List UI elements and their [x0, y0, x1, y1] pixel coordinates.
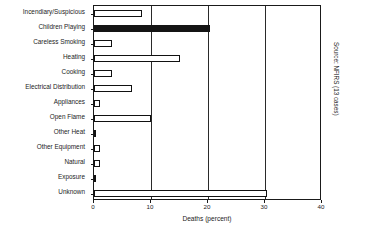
bar-other-heat [94, 130, 96, 136]
bar-row [94, 70, 320, 76]
y-axis-label-heating: Heating [63, 54, 85, 60]
y-axis-label-other-heat: Other Heat [54, 129, 85, 135]
source-note: Source: NFIRS (13 cases) [333, 42, 339, 172]
y-tick-mark [91, 194, 94, 195]
y-axis-label-children-playing: Children Playing [38, 24, 85, 30]
bar-appliances [94, 100, 100, 106]
y-axis-label-careless-smoking: Careless Smoking [33, 39, 85, 45]
bar-row [94, 190, 320, 196]
bar-row [94, 100, 320, 106]
y-tick-mark [91, 29, 94, 30]
x-axis-title: Deaths (percent) [93, 216, 321, 223]
x-tick-label-0: 0 [91, 204, 94, 210]
bar-series [94, 6, 320, 199]
bar-row [94, 145, 320, 151]
bar-row [94, 175, 320, 181]
bar-heating [94, 55, 180, 61]
bar-row [94, 40, 320, 46]
bar-unknown [94, 190, 267, 196]
y-axis-label-incendiary-suspicious: Incendiary/Suspicious [23, 9, 85, 15]
y-tick-mark [91, 104, 94, 105]
bar-row [94, 130, 320, 136]
x-tick-label-20: 20 [204, 204, 211, 210]
y-axis-label-cooking: Cooking [62, 69, 85, 75]
bar-cooking [94, 70, 112, 76]
bar-row [94, 85, 320, 91]
bar-other-equipment [94, 145, 100, 151]
x-tick-label-30: 30 [261, 204, 268, 210]
bar-exposure [94, 175, 96, 181]
x-tick-label-40: 40 [318, 204, 325, 210]
y-tick-mark [91, 149, 94, 150]
y-axis-label-appliances: Appliances [54, 99, 85, 105]
y-axis-label-electrical-distribution: Electrical Distribution [25, 84, 85, 90]
y-tick-mark [91, 44, 94, 45]
y-tick-mark [91, 119, 94, 120]
y-axis-label-unknown: Unknown [58, 189, 85, 195]
bar-electrical-distribution [94, 85, 132, 91]
bar-open-flame [94, 115, 151, 121]
y-axis-label-other-equipment: Other Equipment [37, 144, 85, 150]
y-tick-mark [91, 89, 94, 90]
bar-natural [94, 160, 100, 166]
bar-incendiary-suspicious [94, 10, 142, 16]
x-tick-label-10: 10 [147, 204, 154, 210]
y-tick-mark [91, 179, 94, 180]
plot-area [93, 5, 321, 200]
bar-row [94, 25, 320, 31]
y-axis-label-natural: Natural [64, 159, 85, 165]
y-axis-label-open-flame: Open Flame [50, 114, 85, 120]
bar-row [94, 55, 320, 61]
bar-row [94, 160, 320, 166]
y-axis-labels: Incendiary/SuspiciousChildren PlayingCar… [0, 5, 89, 200]
bar-row [94, 115, 320, 121]
y-tick-mark [91, 74, 94, 75]
y-tick-mark [91, 134, 94, 135]
bar-careless-smoking [94, 40, 112, 46]
y-axis-label-exposure: Exposure [58, 174, 85, 180]
y-tick-mark [91, 14, 94, 15]
y-tick-mark [91, 164, 94, 165]
chart-page: Incendiary/SuspiciousChildren PlayingCar… [0, 0, 365, 237]
bar-children-playing [94, 25, 210, 31]
y-tick-mark [91, 59, 94, 60]
bar-row [94, 10, 320, 16]
